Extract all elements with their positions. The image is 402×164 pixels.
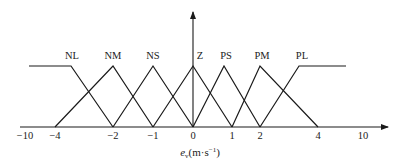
series-pm <box>232 66 318 127</box>
x-tick-label: −10 <box>17 130 33 141</box>
x-axis-label: ev(m·s−1) <box>180 146 220 160</box>
x-tick-label: 10 <box>358 130 369 141</box>
series-label-nm: NM <box>105 50 123 61</box>
x-tick-label: 2 <box>257 130 262 141</box>
series-labels: NLNMNSZPSPMPL <box>65 50 308 61</box>
series-label-nl: NL <box>65 50 79 61</box>
series-label-ns: NS <box>146 50 160 61</box>
x-tick-label: −4 <box>49 130 61 141</box>
membership-function-chart: NLNMNSZPSPMPL −10−4−2−1012410 ev(m·s−1) <box>0 0 402 164</box>
x-tick-label: −1 <box>147 130 158 141</box>
series-nm <box>55 66 153 127</box>
x-tick-label: −2 <box>107 130 118 141</box>
series-label-pm: PM <box>254 50 270 61</box>
series-label-ps: PS <box>220 50 232 61</box>
x-tick-label: 1 <box>229 130 234 141</box>
x-tick-label: 0 <box>190 130 195 141</box>
series-nl <box>29 66 113 127</box>
x-tick-label: 4 <box>315 130 321 141</box>
membership-series <box>29 66 346 127</box>
series-pl <box>260 66 346 127</box>
series-ns <box>113 66 193 127</box>
series-label-pl: PL <box>296 50 308 61</box>
series-label-z: Z <box>197 50 203 61</box>
x-tick-labels: −10−4−2−1012410 <box>17 130 368 141</box>
